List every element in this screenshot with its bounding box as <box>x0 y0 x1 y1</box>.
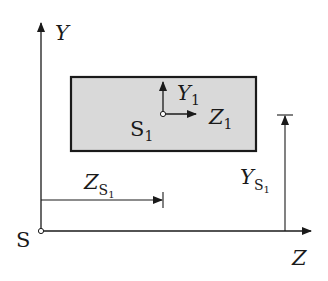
global-origin-label: S <box>16 228 30 252</box>
z-offset-label: ZS1 <box>83 170 115 200</box>
local-origin-marker <box>160 111 165 116</box>
coordinate-diagram: Y S Z Y1 S1 Z1 ZS1 YS1 <box>0 0 328 281</box>
global-z-label: Z <box>291 246 307 270</box>
global-y-label: Y <box>55 21 71 45</box>
global-origin-marker <box>38 228 43 233</box>
y-offset-label: YS1 <box>240 165 270 195</box>
